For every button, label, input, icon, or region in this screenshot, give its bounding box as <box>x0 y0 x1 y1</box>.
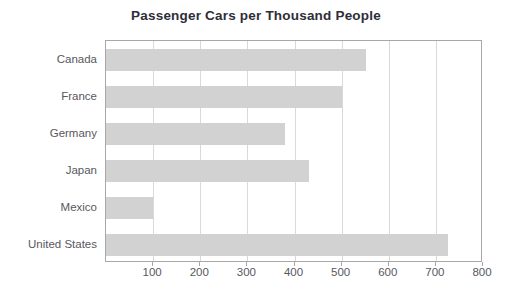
bar-band <box>106 189 481 226</box>
x-axis-tick-labels: 100200300400500600700800 <box>105 266 482 286</box>
bar-band <box>106 226 481 263</box>
y-axis-category-labels: CanadaFranceGermanyJapanMexicoUnited Sta… <box>0 40 97 262</box>
y-axis-label: France <box>0 90 97 102</box>
x-axis-tick-label: 600 <box>378 266 397 278</box>
bar[interactable] <box>106 123 285 145</box>
x-axis-tick-label: 300 <box>237 266 256 278</box>
bar[interactable] <box>106 160 309 182</box>
bars-layer <box>106 41 481 261</box>
y-axis-label: Mexico <box>0 201 97 213</box>
x-axis-tick-label: 200 <box>190 266 209 278</box>
x-axis-tick-label: 500 <box>331 266 350 278</box>
y-axis-label: Canada <box>0 53 97 65</box>
x-axis-tick-label: 400 <box>284 266 303 278</box>
bar[interactable] <box>106 197 153 219</box>
bar[interactable] <box>106 49 366 71</box>
bar[interactable] <box>106 234 448 256</box>
bar-band <box>106 152 481 189</box>
bar-chart-figure: Passenger Cars per Thousand People Canad… <box>0 0 512 303</box>
y-axis-label: United States <box>0 238 97 250</box>
bar-band <box>106 115 481 152</box>
x-axis-tick-label: 800 <box>472 266 491 278</box>
bar[interactable] <box>106 86 342 108</box>
x-axis-tick-label: 700 <box>425 266 444 278</box>
plot-area <box>105 40 482 262</box>
x-axis-tick-label: 100 <box>143 266 162 278</box>
bar-band <box>106 41 481 78</box>
chart-title: Passenger Cars per Thousand People <box>0 8 512 23</box>
y-axis-label: Germany <box>0 127 97 139</box>
y-axis-label: Japan <box>0 164 97 176</box>
bar-band <box>106 78 481 115</box>
